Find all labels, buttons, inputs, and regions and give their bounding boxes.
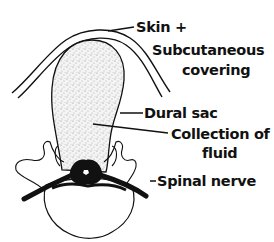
label-covering: covering — [182, 62, 250, 78]
dural-sac — [52, 40, 125, 172]
label-skin: Skin + — [136, 19, 187, 35]
label-fluid: fluid — [202, 145, 237, 161]
skin-leader-line — [108, 27, 134, 31]
label-dural-sac: Dural sac — [144, 105, 218, 121]
label-subcutaneous: Subcutaneous — [152, 42, 264, 58]
meningocele-diagram: Skin + Subcutaneous covering Dural sac C… — [0, 0, 274, 242]
label-collection-of: Collection of — [171, 126, 271, 142]
label-spinal-nerve: Spinal nerve — [157, 173, 256, 189]
